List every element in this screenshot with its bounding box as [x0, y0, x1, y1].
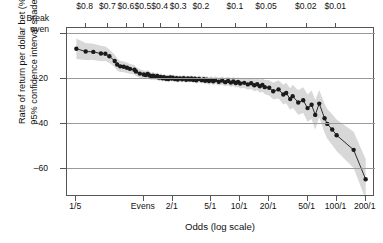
data-point-marker [363, 177, 367, 181]
data-point-marker [301, 98, 305, 102]
top-axis-tick-label: $0.05 [255, 1, 277, 11]
data-point-marker [309, 103, 313, 107]
top-axis-tick-label: $0.02 [295, 1, 317, 11]
gridline-neg20 [67, 78, 375, 79]
data-point-marker [267, 86, 271, 90]
top-axis-tick-label: $0.3 [170, 1, 187, 11]
confidence-interval-band [76, 39, 365, 200]
top-axis-tick-label: $0.2 [192, 1, 209, 11]
data-point-marker [103, 52, 107, 56]
top-axis-tick-label: $0.01 [324, 1, 346, 11]
gridline-neg40 [67, 123, 375, 124]
data-point-marker [128, 67, 132, 71]
bottom-axis-tick-label: 2/1 [166, 201, 178, 211]
data-point-marker [284, 91, 288, 95]
bottom-axis-tick-label: 5/1 [204, 201, 216, 211]
bottom-axis-tick-label: 10/1 [231, 201, 248, 211]
data-point-marker [322, 116, 326, 120]
y-tick-label: –60 [34, 163, 48, 173]
gridline-neg60 [67, 168, 375, 169]
top-axis-tick-label: $0.4 [151, 1, 168, 11]
data-point-marker [276, 87, 280, 91]
data-point-marker [317, 101, 321, 105]
data-point-marker [238, 81, 242, 85]
y-axis-title-line1: Rate of return per dollar bet (%) [17, 0, 29, 160]
data-point-marker [351, 148, 355, 152]
bottom-axis-tick-label: 20/1 [260, 201, 277, 211]
data-point-marker [305, 106, 309, 110]
data-point-marker [290, 94, 294, 98]
data-point-marker [91, 50, 95, 54]
data-series-svg [67, 28, 375, 195]
top-axis-tick-label: $0.5 [134, 1, 151, 11]
bottom-axis-tick-label: Evens [131, 201, 155, 211]
data-point-marker [107, 54, 111, 58]
data-point-marker [138, 71, 142, 75]
data-point-marker [263, 85, 267, 89]
chart-figure: $0.8$0.7$0.6$0.5$0.4$0.3$0.2$0.1$0.05$0.… [0, 0, 383, 243]
data-point-marker [271, 89, 275, 93]
top-axis-tick-label: $0.1 [226, 1, 243, 11]
y-axis-title: Rate of return per dollar bet (%) 95% co… [17, 0, 40, 160]
data-point-marker [334, 133, 338, 137]
data-point-marker [83, 49, 87, 53]
bottom-axis-tick-label: 200/1 [354, 201, 376, 211]
data-point-marker [296, 100, 300, 104]
top-axis-tick-label: $0.7 [99, 1, 116, 11]
gridline-0 [67, 33, 375, 34]
top-axis-tick-label: $0.8 [76, 1, 93, 11]
bottom-axis-tick-label: 100/1 [325, 201, 347, 211]
bottom-axis-labels: 1/5Evens2/15/110/120/150/1100/1200/1 [0, 201, 383, 215]
data-point-marker [134, 69, 138, 73]
bottom-axis [66, 195, 374, 197]
data-point-marker [74, 47, 78, 51]
data-point-marker [330, 127, 334, 131]
data-point-marker [313, 113, 317, 117]
x-axis-title: Odds (log scale) [66, 221, 374, 232]
top-axis-tick-label: $0.6 [117, 1, 134, 11]
bottom-axis-tick-label: 50/1 [298, 201, 315, 211]
y-axis-title-line2: 95% confidence interval shaded [28, 0, 40, 160]
data-point-marker [99, 51, 103, 55]
data-point-marker [113, 59, 117, 63]
bottom-axis-tick-label: 1/5 [69, 201, 81, 211]
plot-area [66, 28, 374, 195]
